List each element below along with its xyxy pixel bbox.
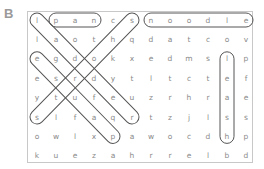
letter-cell[interactable]: y	[28, 88, 47, 107]
letter-cell[interactable]: p	[237, 127, 256, 146]
letter-cell[interactable]: l	[218, 49, 237, 68]
letter-cell[interactable]: t	[47, 88, 66, 107]
letter-cell[interactable]: r	[66, 69, 85, 88]
letter-cell[interactable]: t	[85, 30, 104, 49]
letter-cell[interactable]: l	[218, 11, 237, 30]
letter-cell[interactable]: e	[237, 11, 256, 30]
letter-cell[interactable]: t	[142, 108, 161, 127]
letter-cell[interactable]: r	[199, 88, 218, 107]
letter-cell[interactable]: n	[85, 11, 104, 30]
letter-cell[interactable]: s	[199, 49, 218, 68]
letter-cell[interactable]: o	[161, 127, 180, 146]
letter-cell[interactable]: x	[85, 127, 104, 146]
letter-cell[interactable]: c	[199, 30, 218, 49]
letter-cell[interactable]: a	[66, 11, 85, 30]
letter-cell[interactable]: l	[47, 108, 66, 127]
letter-cell[interactable]: e	[28, 49, 47, 68]
letter-cell[interactable]: y	[104, 69, 123, 88]
letter-cell[interactable]: o	[66, 30, 85, 49]
letter-cell[interactable]: m	[180, 49, 199, 68]
letter-cell[interactable]: l	[66, 127, 85, 146]
letter-cell[interactable]: d	[85, 69, 104, 88]
letter-cell[interactable]: o	[180, 11, 199, 30]
letter-cell[interactable]: l	[28, 11, 47, 30]
letter-cell[interactable]: o	[218, 30, 237, 49]
letter-cell[interactable]: u	[123, 88, 142, 107]
letter-cell[interactable]: s	[218, 108, 237, 127]
letter-cell[interactable]: d	[66, 49, 85, 68]
letter-cell[interactable]: o	[161, 11, 180, 30]
letter-cell[interactable]: n	[142, 11, 161, 30]
letter-cell[interactable]: w	[47, 127, 66, 146]
letter-cell[interactable]: d	[161, 49, 180, 68]
letter-cell[interactable]: s	[123, 11, 142, 30]
letter-cell[interactable]: o	[85, 49, 104, 68]
letter-cell[interactable]: p	[237, 49, 256, 68]
letter-cell[interactable]: p	[47, 11, 66, 30]
letter-cell[interactable]: f	[237, 69, 256, 88]
letter-cell[interactable]: k	[104, 49, 123, 68]
letter-cell[interactable]: t	[161, 69, 180, 88]
letter-cell[interactable]: u	[47, 146, 66, 165]
letter-cell[interactable]: h	[218, 127, 237, 146]
letter-cell[interactable]: a	[161, 30, 180, 49]
letter-cell[interactable]: h	[123, 146, 142, 165]
letter-cell[interactable]: c	[180, 69, 199, 88]
letter-cell[interactable]: z	[161, 108, 180, 127]
letter-cell[interactable]: e	[104, 88, 123, 107]
letter-cell[interactable]: v	[237, 30, 256, 49]
letter-cell[interactable]: j	[180, 108, 199, 127]
letter-cell[interactable]: l	[199, 108, 218, 127]
letter-cell[interactable]: s	[47, 69, 66, 88]
letter-cell[interactable]: a	[85, 108, 104, 127]
letter-cell[interactable]: t	[199, 69, 218, 88]
letter-cell[interactable]: e	[28, 69, 47, 88]
letter-cell[interactable]: d	[142, 30, 161, 49]
puzzle-label: B	[4, 6, 13, 21]
letter-cell[interactable]: d	[199, 127, 218, 146]
letter-cell[interactable]: f	[85, 88, 104, 107]
letter-cell[interactable]: h	[104, 30, 123, 49]
letter-cell[interactable]: w	[142, 127, 161, 146]
letter-cell[interactable]: b	[218, 146, 237, 165]
letter-cell[interactable]: c	[180, 127, 199, 146]
letter-cell[interactable]: a	[123, 127, 142, 146]
letter-cell[interactable]: c	[104, 11, 123, 30]
letter-cell[interactable]: o	[28, 127, 47, 146]
letter-cell[interactable]: z	[85, 146, 104, 165]
letter-cell[interactable]: d	[237, 146, 256, 165]
letter-cell[interactable]: a	[104, 146, 123, 165]
letter-cell[interactable]: e	[66, 146, 85, 165]
letter-cell[interactable]: r	[142, 146, 161, 165]
letter-cell[interactable]: z	[142, 88, 161, 107]
letter-cell[interactable]: s	[237, 108, 256, 127]
letter-cell[interactable]: t	[180, 30, 199, 49]
letter-cell[interactable]: h	[180, 88, 199, 107]
letter-cell[interactable]: q	[123, 30, 142, 49]
letter-cell[interactable]: l	[142, 69, 161, 88]
letter-cell[interactable]: r	[123, 108, 142, 127]
letter-cell[interactable]: e	[142, 49, 161, 68]
letter-cell[interactable]: e	[180, 146, 199, 165]
letter-cell[interactable]: t	[123, 69, 142, 88]
letter-cell[interactable]: r	[161, 88, 180, 107]
letter-cell[interactable]: a	[47, 30, 66, 49]
letter-cell[interactable]: p	[104, 127, 123, 146]
letter-cell[interactable]: g	[47, 49, 66, 68]
letter-cell[interactable]: e	[237, 88, 256, 107]
letter-cell[interactable]: l	[28, 30, 47, 49]
letter-cell[interactable]: k	[28, 146, 47, 165]
letter-cell[interactable]: l	[199, 146, 218, 165]
letter-cell[interactable]: d	[199, 11, 218, 30]
letter-cell[interactable]: f	[66, 108, 85, 127]
letter-cell[interactable]: a	[218, 88, 237, 107]
letter-cell[interactable]: x	[123, 49, 142, 68]
letter-cell[interactable]: s	[28, 108, 47, 127]
letter-cell[interactable]: q	[104, 108, 123, 127]
letter-cell[interactable]: e	[218, 69, 237, 88]
letter-cell[interactable]: r	[161, 146, 180, 165]
letter-cell[interactable]: u	[66, 88, 85, 107]
